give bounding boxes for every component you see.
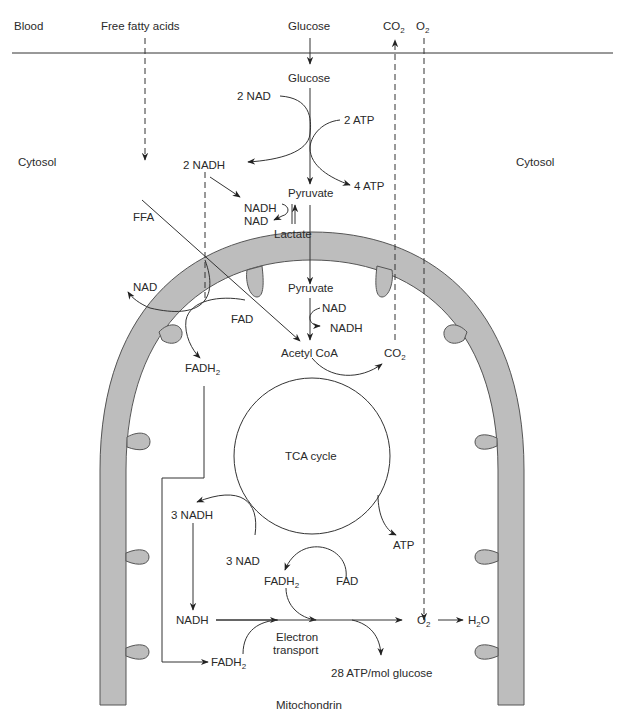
crista xyxy=(126,645,149,659)
label-blood-co2: CO2 xyxy=(383,20,405,35)
label-mitochondrion: Mitochondrin xyxy=(276,699,342,711)
label-tca-fadh2: FADH2 xyxy=(264,575,300,590)
label-etc-o2: O2 xyxy=(417,614,431,629)
label-blood: Blood xyxy=(14,20,43,32)
label-tca-atp: ATP xyxy=(393,539,415,551)
metabolism-diagram: Blood Free fatty acids Glucose CO2 O2 Cy… xyxy=(0,0,628,723)
label-mito-nadh: NADH xyxy=(330,322,363,334)
label-pyruvate-mito: Pyruvate xyxy=(288,282,333,294)
label-fa-nad: NAD xyxy=(133,281,157,293)
label-cytosol-left: Cytosol xyxy=(18,156,56,168)
label-blood-o2: O2 xyxy=(416,20,430,35)
label-h2o: H2O xyxy=(468,614,490,629)
label-electron: Electron xyxy=(276,631,318,643)
label-pyruvate-cytosol: Pyruvate xyxy=(288,187,333,199)
label-fa-fadh2: FADH2 xyxy=(185,362,221,377)
label-mito-co2: CO2 xyxy=(384,347,406,362)
label-transport: transport xyxy=(273,644,319,656)
label-3-nad: 3 NAD xyxy=(226,555,260,567)
label-lactate: Lactate xyxy=(274,228,312,240)
label-fa-fad: FAD xyxy=(231,313,253,325)
label-3-nadh: 3 NADH xyxy=(171,509,213,521)
label-acetyl-coa: Acetyl CoA xyxy=(281,347,338,359)
label-atp-yield: 28 ATP/mol glucose xyxy=(331,667,432,679)
crista xyxy=(475,645,498,659)
label-free-fatty-acids: Free fatty acids xyxy=(101,20,180,32)
crista xyxy=(127,433,150,450)
crista xyxy=(475,435,497,449)
crista xyxy=(376,266,393,297)
crista xyxy=(475,550,498,564)
label-2-nad: 2 NAD xyxy=(237,90,271,102)
label-etc-fadh2: FADH2 xyxy=(211,656,247,671)
label-tca-fad: FAD xyxy=(336,575,358,587)
label-4-atp: 4 ATP xyxy=(354,180,385,192)
label-mito-nad: NAD xyxy=(322,302,346,314)
crista xyxy=(126,550,149,564)
label-2-nadh: 2 NADH xyxy=(183,159,225,171)
label-blood-glucose: Glucose xyxy=(288,20,330,32)
label-etc-nadh: NADH xyxy=(176,614,209,626)
label-cytosol-right: Cytosol xyxy=(516,156,554,168)
crista xyxy=(247,266,264,297)
label-2-atp: 2 ATP xyxy=(344,114,375,126)
label-ffa: FFA xyxy=(133,211,154,223)
label-glucose: Glucose xyxy=(288,72,330,84)
label-tca-cycle: TCA cycle xyxy=(285,450,337,462)
label-lactate-nadh: NADH xyxy=(244,202,277,214)
label-lactate-nad: NAD xyxy=(244,215,268,227)
